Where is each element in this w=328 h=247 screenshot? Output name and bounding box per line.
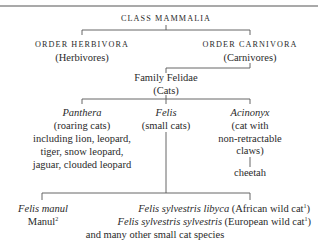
genus-panthera-line-4: jaguar, clouded leopard [33, 158, 131, 171]
class-mammalia-label: CLASS MAMMALIA [121, 12, 211, 25]
genus-acinonyx-line-1: (cat with [231, 119, 268, 132]
order-herbivora-label: ORDER HERBIVORA [35, 38, 129, 51]
genus-felis-name: Felis [156, 106, 177, 119]
genus-acinonyx-name: Acinonyx [230, 106, 269, 119]
species-others-note: and many other small cat species [86, 228, 225, 241]
genus-panthera-line-2: including lion, leopard, [33, 132, 131, 145]
footnote-marker: 2 [55, 216, 58, 222]
genus-panthera-line-1: (roaring cats) [54, 119, 110, 132]
order-carnivora-common: (Carnivores) [223, 51, 276, 64]
species-felis-manul-latin: Felis manul [18, 202, 68, 215]
connector-class-orders [82, 30, 250, 35]
connector-felis-species [42, 193, 250, 200]
genus-panthera-line-3: tiger, snow leopard, [41, 145, 124, 158]
species-felis-libyca: Felis sylvestris libyca (African wild ca… [138, 202, 310, 215]
genus-felis-line-1: (small cats) [142, 119, 191, 132]
family-felidae-label: Family Felidae [134, 71, 197, 84]
species-felis-sylvestris: Felis sylvestris sylvestris (European wi… [118, 215, 311, 228]
order-carnivora-label: ORDER CARNIVORA [203, 38, 298, 51]
species-felis-manul-common: Manul2 [28, 215, 58, 228]
genus-panthera-name: Panthera [62, 106, 101, 119]
order-herbivora-common: (Herbivores) [55, 51, 109, 64]
genus-acinonyx-line-3: claws) [236, 144, 263, 157]
species-cheetah: cheetah [234, 166, 266, 179]
family-felidae-common: (Cats) [153, 84, 179, 97]
